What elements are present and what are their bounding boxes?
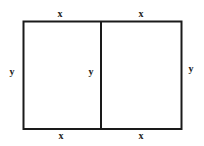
label-middle: y: [89, 66, 94, 77]
label-left: y: [10, 66, 15, 77]
label-top-right: x: [139, 8, 144, 19]
divided-rectangle-diagram: x x x x y y y: [0, 0, 204, 146]
label-bottom-right: x: [139, 130, 144, 141]
outer-rectangle: [24, 22, 182, 130]
label-right: y: [189, 63, 194, 74]
label-top-left: x: [58, 8, 63, 19]
label-bottom-left: x: [59, 130, 64, 141]
